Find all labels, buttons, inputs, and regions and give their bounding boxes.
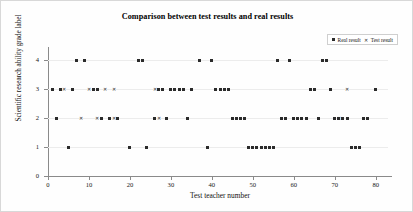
- data-point-real: [239, 117, 242, 120]
- x-tick-label: 0: [35, 181, 61, 188]
- data-point-real: [227, 88, 230, 91]
- x-axis-line: [48, 176, 392, 177]
- data-point-real: [145, 146, 148, 149]
- x-tick-label: 40: [199, 181, 225, 188]
- data-point-real: [206, 146, 209, 149]
- data-point-real: [210, 59, 213, 62]
- data-point-real: [341, 117, 344, 120]
- data-point-real: [182, 88, 185, 91]
- data-point-real: [75, 59, 78, 62]
- data-point-real: [317, 117, 320, 120]
- data-point-real: [198, 59, 201, 62]
- data-point-real: [280, 117, 283, 120]
- data-point-real: [350, 146, 353, 149]
- x-tick: [212, 176, 213, 180]
- data-point-real: [161, 88, 164, 91]
- y-tick-label: 1: [13, 143, 39, 150]
- data-point-real: [67, 146, 70, 149]
- data-point-test: ✕: [95, 116, 100, 121]
- data-point-real: [346, 117, 349, 120]
- y-tick: [44, 118, 48, 119]
- data-point-real: [223, 88, 226, 91]
- data-point-test: ✕: [62, 87, 67, 92]
- y-tick-label: 4: [13, 56, 39, 63]
- data-point-real: [264, 146, 267, 149]
- x-tick: [89, 176, 90, 180]
- data-point-real: [141, 59, 144, 62]
- data-point-real: [137, 59, 140, 62]
- data-point-real: [284, 117, 287, 120]
- data-point-test: ✕: [78, 116, 83, 121]
- gridline: [48, 147, 388, 148]
- data-point-real: [165, 117, 168, 120]
- chart-figure: Comparison between test results and real…: [0, 0, 413, 212]
- data-point-test: ✕: [345, 87, 350, 92]
- x-tick: [171, 176, 172, 180]
- data-point-real: [321, 59, 324, 62]
- x-tick: [335, 176, 336, 180]
- data-point-real: [358, 146, 361, 149]
- y-tick-label: 0: [13, 172, 39, 179]
- data-point-real: [186, 117, 189, 120]
- data-point-real: [178, 88, 181, 91]
- data-point-real: [71, 88, 74, 91]
- data-point-real: [190, 88, 193, 91]
- data-point-real: [313, 88, 316, 91]
- data-point-real: [268, 146, 271, 149]
- data-point-real: [300, 117, 303, 120]
- data-point-real: [231, 117, 234, 120]
- x-tick: [294, 176, 295, 180]
- data-point-real: [255, 146, 258, 149]
- data-point-real: [247, 146, 250, 149]
- data-point-real: [309, 88, 312, 91]
- data-point-real: [374, 88, 377, 91]
- x-tick: [253, 176, 254, 180]
- x-tick: [130, 176, 131, 180]
- data-point-real: [219, 88, 222, 91]
- x-tick-label: 50: [240, 181, 266, 188]
- data-point-test: ✕: [111, 87, 116, 92]
- data-point-test: ✕: [152, 87, 157, 92]
- y-tick-label: 2: [13, 114, 39, 121]
- square-marker-icon: [332, 38, 335, 41]
- x-tick-label: 10: [76, 181, 102, 188]
- y-tick: [44, 89, 48, 90]
- x-tick-label: 70: [322, 181, 348, 188]
- data-point-test: ✕: [86, 87, 91, 92]
- y-axis-label: Scientific research ability grade label: [15, 0, 23, 148]
- data-point-real: [169, 88, 172, 91]
- gridline: [48, 60, 388, 61]
- x-tick: [376, 176, 377, 180]
- data-point-real: [116, 117, 119, 120]
- data-point-real: [83, 59, 86, 62]
- data-point-real: [214, 88, 217, 91]
- data-point-real: [235, 117, 238, 120]
- data-point-real: [157, 88, 160, 91]
- data-point-real: [260, 146, 263, 149]
- y-tick-label: 3: [13, 85, 39, 92]
- data-point-real: [366, 117, 369, 120]
- legend-label-test: Test result: [371, 37, 393, 43]
- x-marker-icon: ✕: [364, 37, 368, 43]
- data-point-test: ✕: [103, 87, 108, 92]
- data-point-real: [288, 59, 291, 62]
- data-point-real: [292, 117, 295, 120]
- data-point-real: [128, 146, 131, 149]
- x-tick-label: 30: [158, 181, 184, 188]
- data-point-real: [305, 117, 308, 120]
- data-point-real: [354, 146, 357, 149]
- data-point-real: [173, 88, 176, 91]
- y-tick: [44, 60, 48, 61]
- x-tick: [48, 176, 49, 180]
- x-tick-label: 60: [281, 181, 307, 188]
- data-point-real: [325, 59, 328, 62]
- data-point-real: [55, 117, 58, 120]
- data-point-real: [251, 146, 254, 149]
- chart-legend[interactable]: Real result ✕ Test result: [327, 34, 398, 45]
- data-point-test: ✕: [156, 116, 161, 121]
- y-tick: [44, 147, 48, 148]
- data-point-real: [92, 88, 95, 91]
- data-point-real: [329, 88, 332, 91]
- data-point-test: ✕: [111, 116, 116, 121]
- x-axis-label: Test teacher number: [48, 191, 392, 200]
